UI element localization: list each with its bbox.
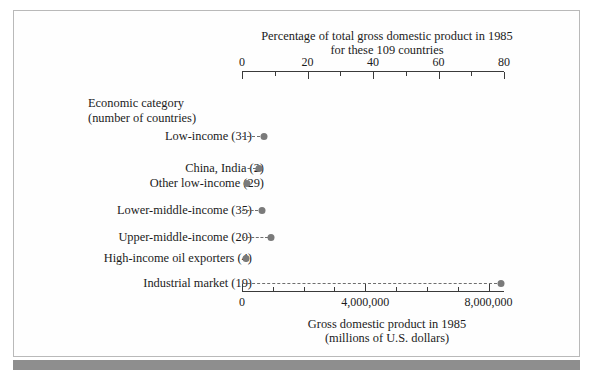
figure-panel: Percentage of total gross domestic produ… bbox=[13, 10, 580, 357]
figure-caption bbox=[13, 371, 580, 377]
row-marker-group bbox=[242, 129, 504, 143]
row-label: Upper-middle-income (20) bbox=[118, 230, 252, 244]
bottom-axis-line bbox=[242, 291, 504, 292]
leader-line bbox=[242, 283, 497, 284]
bottom-axis-gdp: 04,000,0008,000,000 bbox=[242, 287, 504, 313]
bottom-axis-tick-0 bbox=[242, 284, 243, 291]
data-point bbox=[258, 207, 265, 214]
top-axis-title-line1: Percentage of total gross domestic produ… bbox=[232, 29, 542, 43]
row-label: Lower-middle-income (35) bbox=[117, 203, 252, 217]
top-axis-tick-20 bbox=[308, 72, 309, 79]
row-marker-group bbox=[242, 251, 504, 265]
top-axis-tick-60 bbox=[439, 72, 440, 79]
top-axis-tick-40 bbox=[373, 72, 374, 79]
top-axis-tick-label: 80 bbox=[498, 56, 510, 69]
data-point bbox=[242, 255, 249, 262]
top-axis-percentage: 020406080 bbox=[242, 57, 504, 83]
top-axis-tick-30 bbox=[340, 72, 341, 76]
leader-line bbox=[242, 237, 268, 238]
bottom-axis-tick-5000000 bbox=[396, 287, 397, 291]
category-header: Economic category (number of countries) bbox=[88, 96, 196, 125]
data-row: Lower-middle-income (35) bbox=[14, 203, 581, 217]
category-header-line2: (number of countries) bbox=[88, 111, 196, 126]
data-point bbox=[243, 180, 250, 187]
data-row: China, India (2) bbox=[14, 161, 581, 175]
chart-plot-area: Percentage of total gross domestic produ… bbox=[14, 11, 581, 356]
data-row: High-income oil exporters (4) bbox=[14, 251, 581, 265]
top-axis-tick-70 bbox=[471, 72, 472, 76]
bottom-axis-title-line1: Gross domestic product in 1985 bbox=[232, 317, 542, 331]
footer-rule bbox=[13, 360, 580, 370]
top-axis-tick-label: 60 bbox=[433, 56, 445, 69]
bottom-axis-tick-label: 4,000,000 bbox=[341, 296, 389, 309]
data-point bbox=[256, 165, 263, 172]
bottom-axis-tick-7000000 bbox=[458, 287, 459, 291]
data-row: Upper-middle-income (20) bbox=[14, 230, 581, 244]
top-axis-tick-label: 0 bbox=[239, 56, 245, 69]
top-axis-tick-10 bbox=[275, 72, 276, 76]
bottom-axis-tick-6000000 bbox=[427, 287, 428, 291]
row-marker-group bbox=[242, 161, 504, 175]
leader-line bbox=[242, 210, 258, 211]
data-point bbox=[260, 133, 267, 140]
row-marker-group bbox=[242, 230, 504, 244]
top-axis-tick-80 bbox=[504, 72, 505, 79]
data-row: Other low-income (29) bbox=[14, 176, 581, 190]
leader-line bbox=[242, 168, 256, 169]
bottom-axis-tick-8000000 bbox=[489, 284, 490, 291]
top-axis-tick-50 bbox=[406, 72, 407, 76]
top-axis-tick-label: 20 bbox=[302, 56, 314, 69]
leader-line bbox=[242, 136, 260, 137]
row-label: Low-income (31) bbox=[165, 129, 252, 143]
bottom-axis-tick-1000000 bbox=[273, 287, 274, 291]
bottom-axis-title-line2: (millions of U.S. dollars) bbox=[232, 331, 542, 345]
bottom-axis-tick-2000000 bbox=[304, 287, 305, 291]
row-marker-group bbox=[242, 203, 504, 217]
bottom-axis-tick-3000000 bbox=[334, 287, 335, 291]
top-axis-tick-0 bbox=[242, 72, 243, 79]
row-marker-group bbox=[242, 176, 504, 190]
bottom-axis-tick-label: 8,000,000 bbox=[465, 296, 513, 309]
row-label: Industrial market (19) bbox=[143, 276, 252, 290]
top-axis-title: Percentage of total gross domestic produ… bbox=[232, 29, 542, 57]
bottom-axis-tick-label: 0 bbox=[239, 296, 245, 309]
row-label: High-income oil exporters (4) bbox=[104, 251, 252, 265]
data-row: Low-income (31) bbox=[14, 129, 581, 143]
data-point bbox=[268, 234, 275, 241]
bottom-axis-tick-4000000 bbox=[365, 284, 366, 291]
data-point bbox=[497, 280, 504, 287]
top-axis-title-line2: for these 109 countries bbox=[232, 43, 542, 57]
top-axis-tick-label: 40 bbox=[367, 56, 379, 69]
bottom-axis-title: Gross domestic product in 1985 (millions… bbox=[232, 317, 542, 345]
category-header-line1: Economic category bbox=[88, 96, 196, 111]
